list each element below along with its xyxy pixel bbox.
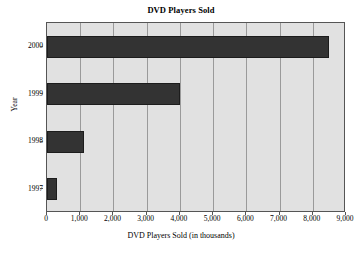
x-axis-title: DVD Players Sold (in thousands)	[0, 231, 362, 241]
plot-area	[46, 22, 345, 212]
bar-1998[interactable]	[47, 131, 84, 153]
y-tick-label-1997: 1997	[3, 184, 43, 193]
x-tick-label-9000: 9,000	[325, 214, 362, 223]
y-tick-mark	[40, 46, 43, 47]
x-axis-tick-labels: 01,0002,0003,0004,0005,0006,0007,0008,00…	[0, 214, 362, 226]
y-tick-label-1998: 1998	[3, 136, 43, 145]
y-tick-label-1999: 1999	[3, 89, 43, 98]
y-tick-label-2000: 2000	[3, 41, 43, 50]
bar-1997[interactable]	[47, 178, 57, 200]
y-tick-mark	[40, 141, 43, 142]
bar-1999[interactable]	[47, 83, 180, 105]
y-axis-tick-labels: 2000199919981997	[0, 22, 43, 212]
y-tick-mark	[40, 188, 43, 189]
bar-2000[interactable]	[47, 36, 329, 58]
y-tick-mark	[40, 93, 43, 94]
chart-figure: DVD Players Sold Year 2000199919981997 0…	[0, 0, 362, 256]
chart-title: DVD Players Sold	[0, 5, 362, 15]
